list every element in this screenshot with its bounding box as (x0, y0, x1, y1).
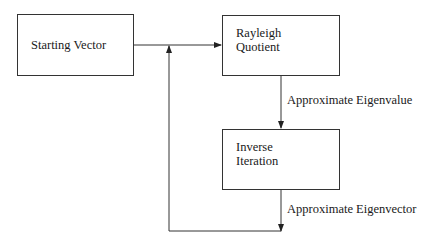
approximate-eigenvector-label: Approximate Eigenvector (287, 202, 416, 216)
rayleigh-label-line2: Quotient (236, 40, 280, 54)
starting-vector-label: Starting Vector (31, 38, 106, 52)
starting-vector-box: Starting Vector (17, 14, 134, 76)
inverse-label-line1: Inverse (236, 140, 273, 154)
rayleigh-quotient-iteration-diagram: Starting Vector Rayleigh Quotient Invers… (0, 0, 435, 246)
inverse-label-line2: Iteration (236, 154, 278, 168)
inverse-iteration-box: Inverse Iteration (222, 129, 340, 190)
rayleigh-label-line1: Rayleigh (236, 26, 281, 40)
approximate-eigenvalue-label: Approximate Eigenvalue (287, 93, 412, 107)
rayleigh-quotient-box: Rayleigh Quotient (222, 15, 340, 76)
